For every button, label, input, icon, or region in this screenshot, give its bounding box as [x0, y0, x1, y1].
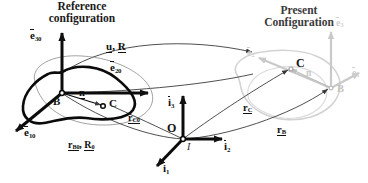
e3-overbar-group: e: [336, 18, 340, 28]
label-rC: rC: [243, 103, 252, 114]
label-e2-present: e2: [247, 48, 254, 59]
label-present-point-B: B: [337, 84, 344, 95]
label-e30: e30: [30, 30, 41, 42]
R-symbol: R: [118, 40, 126, 53]
label-e3-present: e3: [336, 18, 343, 29]
rB0-group: rB0: [68, 139, 79, 151]
reference-configuration-title: Reference configuration: [12, 1, 152, 24]
mapping-comma: ,: [112, 40, 115, 52]
label-i2: i2: [224, 141, 230, 153]
e10-base: e: [24, 126, 29, 138]
rC-group: rC: [243, 102, 252, 114]
label-inertial-frame-I: I: [187, 142, 190, 152]
i2-base: i: [224, 140, 227, 152]
e1-subscript: 1: [356, 71, 359, 78]
e10-overbar-group: e: [24, 127, 29, 138]
label-e10: e10: [24, 127, 35, 139]
label-e1-present: e1: [352, 68, 359, 79]
i1-overbar-group: i: [163, 163, 166, 174]
label-i3: i3: [168, 97, 174, 109]
label-n-present: n: [306, 69, 311, 79]
e1-overbar-group: e: [352, 68, 356, 78]
label-point-B: B: [53, 96, 60, 107]
e30-overbar-group: e: [30, 30, 35, 41]
i3-subscript: 3: [171, 102, 174, 109]
label-mapping-u-R: u, R: [106, 41, 126, 52]
rB0-comma: ,: [79, 139, 82, 150]
i3-overbar-group: i: [168, 97, 171, 108]
e1-base: e: [352, 67, 356, 78]
i2-overbar-group: i: [224, 141, 227, 152]
inertial-origin-point: [181, 137, 186, 142]
label-point-C: C: [109, 98, 117, 109]
R0-subscript: 0: [92, 143, 95, 150]
reference-title-line1: Reference: [12, 1, 152, 13]
figure-canvas: Reference configuration Present Configur…: [0, 0, 368, 183]
label-rC0: rC0: [128, 113, 140, 124]
label-rB0-R0: rB0, R0: [68, 140, 94, 151]
e2-subscript: 2: [251, 51, 254, 58]
label-rB: rB: [277, 125, 286, 136]
i3-base: i: [168, 96, 171, 108]
e2-base: e: [247, 47, 251, 58]
present-n-symbol: n: [306, 68, 311, 79]
e20-overbar-group: e: [110, 62, 115, 73]
e2-overbar-group: e: [247, 48, 251, 58]
e20-subscript: 20: [115, 67, 121, 74]
R0-group: R0: [84, 139, 94, 151]
label-e20: e20: [110, 62, 121, 74]
label-origin-O: O: [167, 122, 176, 134]
label-n-reference: n: [79, 88, 85, 99]
e30-subscript: 30: [35, 35, 41, 42]
rB-group: rB: [277, 124, 286, 136]
e3-subscript: 3: [340, 21, 343, 28]
i2-subscript: 2: [227, 146, 230, 153]
e10-subscript: 10: [29, 132, 35, 139]
inertial-axis-i1: [157, 139, 183, 166]
n-symbol: n: [79, 87, 85, 99]
i1-base: i: [163, 162, 166, 174]
i1-subscript: 1: [166, 168, 169, 175]
label-present-point-C: C: [296, 57, 305, 69]
rB-subscript: B: [282, 128, 286, 135]
label-i1: i1: [163, 163, 169, 175]
rC-subscript: C: [248, 106, 253, 113]
e3-base: e: [336, 17, 340, 28]
e30-base: e: [30, 29, 35, 41]
rC0-group: rC0: [128, 112, 140, 124]
R0-base: R: [84, 139, 91, 150]
e20-base: e: [110, 61, 115, 73]
present-title-line1: Present: [240, 5, 358, 17]
reference-title-line2: configuration: [12, 13, 152, 25]
rC0-subscript: C0: [132, 116, 139, 123]
